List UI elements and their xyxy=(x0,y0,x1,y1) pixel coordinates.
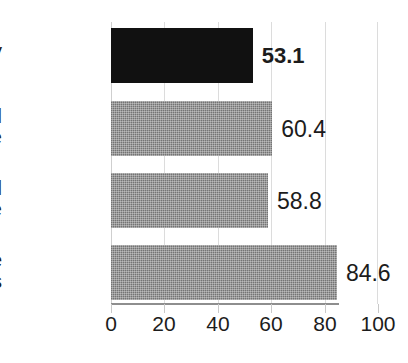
bar-chart: Country 53.1 World Average 60.4 Regional… xyxy=(0,0,408,363)
xtick-label-40: 40 xyxy=(206,313,229,334)
bar-value-country: 53.1 xyxy=(262,45,305,67)
category-label-country: Country xyxy=(0,41,2,62)
chart-title xyxy=(0,0,408,1)
xtick-label-100: 100 xyxy=(360,313,395,334)
bar-value-world-average: 60.4 xyxy=(281,117,326,140)
xtick-label-60: 60 xyxy=(259,313,282,334)
xtick-label-0: 0 xyxy=(105,313,117,334)
bar-regional-average xyxy=(111,173,268,228)
bar-row-world-average: 60.4 xyxy=(111,101,378,156)
bar-country xyxy=(111,28,253,83)
category-label-regional-average: Regional Average xyxy=(0,178,2,220)
bar-value-free-economies: 84.6 xyxy=(346,261,391,284)
bar-free-economies xyxy=(111,245,337,300)
bar-world-average xyxy=(111,101,272,156)
bar-row-free-economies: 84.6 xyxy=(111,245,378,300)
bar-row-regional-average: 58.8 xyxy=(111,173,378,228)
bar-value-regional-average: 58.8 xyxy=(277,189,322,212)
bar-row-country: 53.1 xyxy=(111,28,378,83)
xtick-label-20: 20 xyxy=(152,313,175,334)
xtick-label-80: 80 xyxy=(313,313,336,334)
axis-baseline xyxy=(111,303,339,305)
category-label-world-average: World Average xyxy=(0,106,2,148)
category-label-free-economies: Free Economies xyxy=(0,250,2,292)
